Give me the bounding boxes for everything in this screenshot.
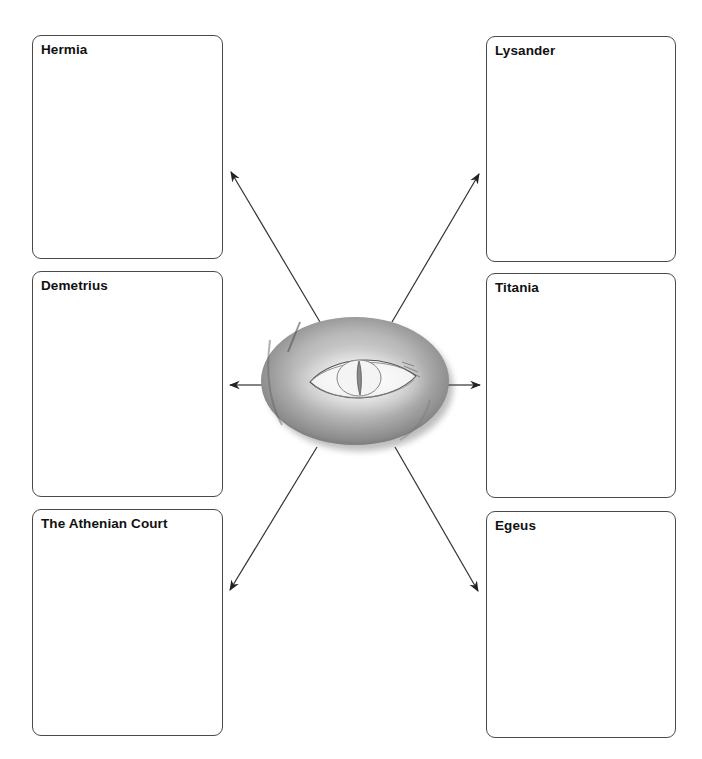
- arrow-to-hermia: [231, 172, 320, 322]
- arrow-to-athenian-court: [230, 447, 317, 590]
- box-egeus: Egeus: [486, 511, 676, 738]
- box-title: Hermia: [41, 42, 87, 57]
- writing-area-titania[interactable]: [491, 300, 671, 493]
- box-athenian-court: The Athenian Court: [32, 509, 223, 736]
- box-title: Demetrius: [41, 278, 108, 293]
- writing-area-hermia[interactable]: [37, 62, 218, 254]
- box-lysander: Lysander: [486, 36, 676, 262]
- box-demetrius: Demetrius: [32, 271, 223, 497]
- box-title: Egeus: [495, 518, 536, 533]
- box-titania: Titania: [486, 273, 676, 498]
- box-title: Lysander: [495, 43, 555, 58]
- arrow-to-lysander: [392, 174, 479, 322]
- writing-area-lysander[interactable]: [491, 63, 671, 257]
- box-title: The Athenian Court: [41, 516, 168, 531]
- writing-area-egeus[interactable]: [491, 538, 671, 733]
- box-hermia: Hermia: [32, 35, 223, 259]
- box-title: Titania: [495, 280, 539, 295]
- arrow-to-egeus: [395, 447, 478, 591]
- writing-area-demetrius[interactable]: [37, 298, 218, 492]
- writing-area-athenian-court[interactable]: [37, 536, 218, 731]
- cat-eye-illustration: [261, 317, 453, 451]
